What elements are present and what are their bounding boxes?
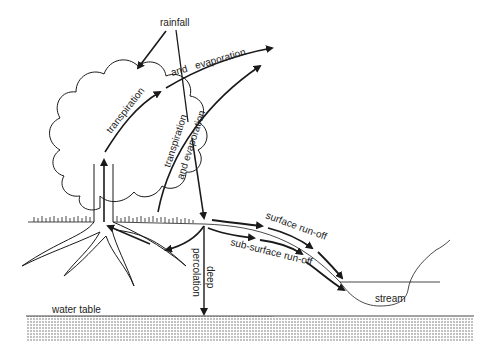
stream-label: stream: [375, 293, 406, 304]
percolation-label: percolation: [191, 248, 202, 297]
infiltration-to-roots-arrow: [166, 226, 204, 250]
groundwater-zone: [26, 316, 474, 341]
surface-runoff-label: surface run-off: [264, 210, 328, 242]
water-cycle-diagram: rainfall transpiration and evaporation t…: [0, 0, 501, 357]
and-evaporation-top-label: and evaporation: [170, 46, 247, 78]
water-table-label: water table: [51, 304, 101, 315]
deep-label: deep: [205, 266, 216, 289]
tree-roots: [22, 222, 186, 286]
rainfall-label: rainfall: [160, 17, 189, 28]
